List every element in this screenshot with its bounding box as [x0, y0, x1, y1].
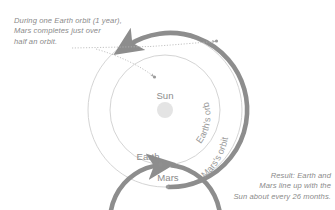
sun-body	[157, 102, 173, 118]
earth-body	[158, 162, 163, 167]
sun-label: Sun	[156, 90, 173, 101]
annotation-bottom-right: Result: Earth and Mars line up with the …	[233, 171, 331, 202]
earth-label: Earth	[137, 151, 160, 162]
annotation-bottom-right-line-1: Result: Earth and	[233, 171, 331, 181]
annotation-top-left-line-1: During one Earth orbit (1 year),	[14, 16, 122, 26]
mars-label: Mars	[157, 172, 179, 183]
earth-start-marker	[153, 75, 156, 78]
mars-body	[166, 185, 170, 189]
annotation-top-left-line-3: half an orbit.	[14, 37, 122, 47]
mars-start-marker	[215, 39, 218, 42]
mars-orbit-arc-arrow	[128, 33, 247, 187]
annotation-top-left: During one Earth orbit (1 year), Mars co…	[14, 16, 122, 47]
annotation-bottom-right-line-3: Sun about every 26 months.	[233, 192, 331, 202]
annotation-bottom-right-line-2: Mars line up with the	[233, 181, 331, 191]
annotation-top-left-line-2: Mars completes just over	[14, 26, 122, 36]
orbit-diagram: Sun Earth Mars Earth's orbit Mars's orbi…	[0, 0, 335, 210]
